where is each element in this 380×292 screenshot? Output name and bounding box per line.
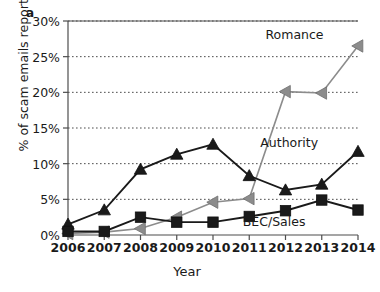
- data-point-marker: [317, 195, 327, 205]
- series-line: [68, 144, 358, 224]
- series-label-authority: Authority: [260, 134, 318, 149]
- series-label-romance: Romance: [265, 26, 323, 41]
- data-point-marker: [134, 163, 146, 174]
- data-point-marker: [207, 138, 219, 149]
- data-point-marker: [352, 40, 363, 52]
- data-point-marker: [63, 226, 73, 236]
- data-point-marker: [135, 212, 145, 222]
- data-point-marker: [316, 87, 327, 99]
- data-point-marker: [99, 226, 109, 236]
- series-label-bec-sales: BEC/Sales: [243, 213, 306, 228]
- data-point-marker: [172, 217, 182, 227]
- data-point-marker: [243, 192, 254, 204]
- data-point-marker: [352, 145, 364, 156]
- data-point-marker: [208, 217, 218, 227]
- data-point-marker: [207, 196, 218, 208]
- data-point-marker: [134, 222, 145, 234]
- data-point-marker: [353, 205, 363, 215]
